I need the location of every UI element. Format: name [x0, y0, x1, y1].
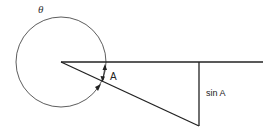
sin-a-label: sin A — [206, 88, 226, 98]
hypotenuse-line — [61, 62, 199, 126]
theta-label: θ — [38, 3, 44, 15]
angle-a-label: A — [110, 71, 117, 82]
trig-diagram: θ A sin A — [0, 0, 273, 137]
